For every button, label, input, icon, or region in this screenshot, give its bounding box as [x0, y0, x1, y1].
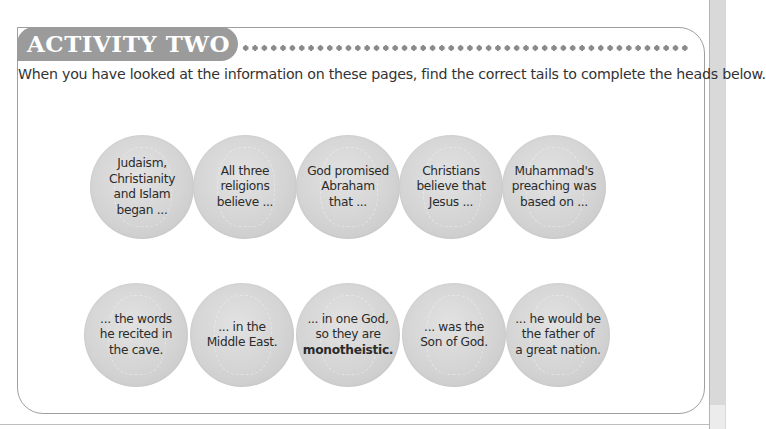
- head-coin-text: Christians believe that Jesus ...: [410, 164, 491, 211]
- head-coin-text: Muhammad's preaching was based on ...: [506, 164, 602, 211]
- head-coin-text: Judaism, Christianity and Islam began ..…: [103, 156, 181, 218]
- dot-leader: [241, 44, 689, 52]
- tail-coin-1[interactable]: ... the words he recited in the cave.: [84, 283, 188, 387]
- tail-coin-text: ... in the Middle East.: [201, 320, 284, 351]
- tail-coin-5[interactable]: ... he would be the father of a great na…: [506, 283, 610, 387]
- tail-coin-text: ... he would be the father of a great na…: [509, 312, 606, 359]
- activity-title: ACTIVITY TWO: [17, 27, 238, 61]
- head-coin-3[interactable]: God promised Abraham that ...: [296, 135, 400, 239]
- page-edge-lower: [710, 405, 725, 429]
- tail-coin-text-regular: ... in one God, so they are: [307, 312, 388, 342]
- page-bottom-rule: [0, 424, 709, 425]
- head-coin-4[interactable]: Christians believe that Jesus ...: [399, 135, 503, 239]
- tail-coin-4[interactable]: ... was the Son of God.: [402, 283, 506, 387]
- head-coin-5[interactable]: Muhammad's preaching was based on ...: [502, 135, 606, 239]
- tail-coin-text: ... the words he recited in the cave.: [94, 312, 179, 359]
- head-coin-text: All three religions believe ...: [211, 164, 279, 211]
- instructions-text: When you have looked at the information …: [18, 66, 708, 82]
- head-coin-1[interactable]: Judaism, Christianity and Islam began ..…: [90, 135, 194, 239]
- tail-coin-text: ... in one God, so they are monotheistic…: [297, 312, 399, 359]
- tail-coin-2[interactable]: ... in the Middle East.: [190, 283, 294, 387]
- tail-coin-text: ... was the Son of God.: [414, 320, 494, 351]
- head-coin-text: God promised Abraham that ...: [301, 164, 395, 211]
- head-coin-2[interactable]: All three religions believe ...: [193, 135, 297, 239]
- tail-coin-text-bold: monotheistic.: [303, 343, 393, 357]
- tail-coin-3[interactable]: ... in one God, so they are monotheistic…: [296, 283, 400, 387]
- page-edge: [709, 0, 726, 429]
